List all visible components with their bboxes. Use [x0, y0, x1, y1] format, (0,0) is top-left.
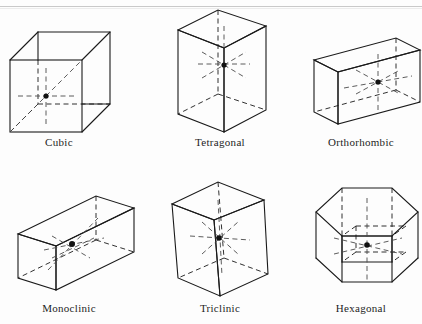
caption-hexagonal: Hexagonal: [300, 302, 422, 314]
crystal-systems-figure: Cubic: [0, 0, 422, 324]
lattice-point: [69, 241, 75, 247]
caption-cubic: Cubic: [4, 136, 114, 148]
figure-tetragonal: [172, 8, 276, 136]
caption-orthorhombic: Orthorhombic: [300, 136, 422, 148]
figure-cubic: [4, 24, 116, 136]
figure-monoclinic: [4, 186, 144, 302]
lattice-point: [216, 235, 222, 241]
figure-orthorhombic: [308, 34, 422, 138]
lattice-point: [375, 79, 380, 84]
caption-triclinic: Triclinic: [160, 302, 280, 314]
caption-tetragonal: Tetragonal: [160, 136, 280, 148]
figure-hexagonal: [306, 182, 422, 298]
lattice-point: [43, 93, 48, 98]
caption-monoclinic: Monoclinic: [4, 302, 134, 314]
lattice-point: [364, 242, 370, 248]
lattice-point: [221, 62, 226, 67]
header-rule: [0, 6, 422, 7]
figure-triclinic: [168, 178, 284, 302]
